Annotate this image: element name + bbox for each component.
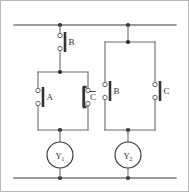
contact-b-right[interactable]: B <box>103 81 120 101</box>
contact-b-top-terminal-lower <box>58 46 62 50</box>
contact-b-right-label: B <box>114 86 120 96</box>
contact-c-right[interactable]: C <box>153 81 170 101</box>
contact-a[interactable]: A <box>36 87 54 107</box>
circuit-diagram: B A C Y 1 <box>0 0 189 192</box>
contact-b-right-terminal-lower <box>103 95 107 99</box>
contact-b-top[interactable]: B <box>58 32 75 52</box>
contact-a-terminal-upper <box>36 88 40 92</box>
contact-c-bar-label: C <box>90 92 96 102</box>
contact-c-bar[interactable]: C <box>84 87 96 107</box>
junction-dot-block1-top <box>58 70 62 74</box>
contact-b-right-terminal-upper <box>103 82 107 86</box>
circuit-canvas: B A C Y 1 <box>0 0 189 192</box>
contact-c-right-label: C <box>164 86 170 96</box>
contact-b-top-label: B <box>69 37 75 47</box>
relay-coil-y2[interactable]: Y 2 <box>115 142 141 168</box>
contact-a-terminal-lower <box>36 101 40 105</box>
contact-c-right-terminal-upper <box>153 82 157 86</box>
relay-coil-y2-subscript: 2 <box>130 156 133 162</box>
contact-c-right-terminal-lower <box>153 95 157 99</box>
contact-b-top-terminal-upper <box>58 33 62 37</box>
junction-dot-block2-top <box>126 40 130 44</box>
contact-a-label: A <box>47 92 54 102</box>
relay-coil-y1[interactable]: Y 1 <box>47 142 73 168</box>
relay-coil-y1-subscript: 1 <box>62 156 65 162</box>
